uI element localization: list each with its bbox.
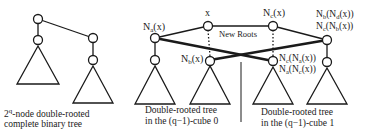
right-child-node xyxy=(89,56,98,65)
nb-nd-node xyxy=(323,36,332,45)
nc-label: Nc(x) xyxy=(263,7,285,20)
na-child-node xyxy=(151,56,160,65)
right-subtree-triangle xyxy=(73,66,113,103)
cube0-left-triangle xyxy=(135,66,175,104)
left-root-node xyxy=(34,15,43,24)
nc-node xyxy=(269,22,278,31)
left-root-edge xyxy=(38,19,93,38)
nb-label: Nb(x) xyxy=(181,53,203,66)
x-label: x xyxy=(205,7,210,18)
left-caption-line2: complete binary tree xyxy=(4,119,82,129)
na-label: Na(x) xyxy=(143,21,165,34)
mid-right-label-2: Na(Nc(x)) xyxy=(279,64,316,75)
cube1-caption-line1: Double-rooted tree xyxy=(261,107,333,117)
mid-right-label-1: Nc(Na(x)) xyxy=(279,53,316,64)
left-caption-line1: 2q-node double-rooted xyxy=(4,107,90,119)
right-top-label-1: Nb(Nd(x)) xyxy=(316,9,354,20)
cube0-caption-line2: in the (q−1)-cube 0 xyxy=(145,116,218,127)
cube1-caption-line2: in the (q−1)-cube 1 xyxy=(261,118,334,129)
nc-na-node xyxy=(269,57,278,66)
cube0-right-triangle xyxy=(190,66,230,104)
right-top-label-2: Nc(Nb(x)) xyxy=(316,21,353,32)
new-roots-label: New Roots xyxy=(219,29,257,39)
na-node xyxy=(151,34,160,43)
left-subtree-triangle xyxy=(17,46,59,84)
x-node xyxy=(204,22,213,31)
na-cross-edge xyxy=(155,38,273,61)
cube0-caption-line1: Double-rooted tree xyxy=(145,105,217,115)
left-child-node xyxy=(34,36,43,45)
right-cube1-child-node xyxy=(323,58,332,67)
double-rooted-tree-diagram: 2q-node double-rooted complete binary tr… xyxy=(0,0,377,136)
right-root-node xyxy=(89,34,98,43)
nb-node xyxy=(206,57,215,66)
x-to-nb-dotted xyxy=(208,30,210,56)
